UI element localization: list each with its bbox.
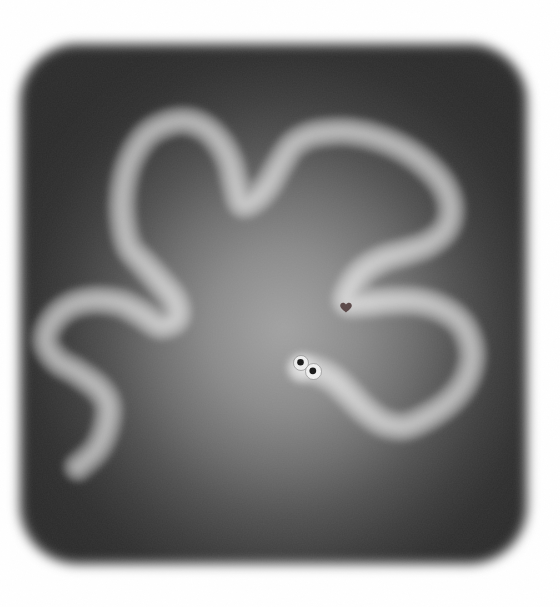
film-grain-overlay <box>25 49 522 559</box>
game-viewport <box>0 0 560 607</box>
game-canvas[interactable] <box>0 0 560 607</box>
